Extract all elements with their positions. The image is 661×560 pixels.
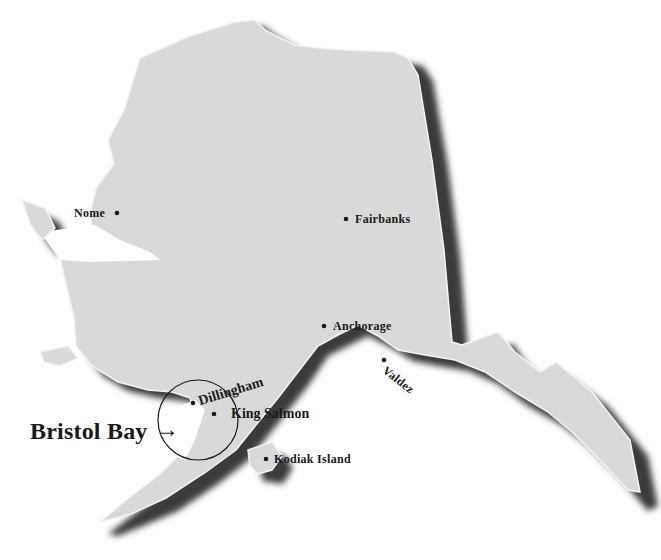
nunivak-island xyxy=(40,346,78,366)
kodiak-dot xyxy=(264,457,269,462)
city-label-anchorage: Anchorage xyxy=(333,320,392,332)
dillingham-dot xyxy=(191,401,196,406)
anchorage-dot xyxy=(322,324,327,329)
king-salmon-dot xyxy=(212,412,217,417)
nome-dot xyxy=(115,211,120,216)
city-label-kodiak-island: Kodiak Island xyxy=(274,453,351,465)
city-label-fairbanks: Fairbanks xyxy=(355,213,410,225)
callout-label-bristol-bay: Bristol Bay xyxy=(30,419,148,443)
city-label-nome: Nome xyxy=(74,207,105,219)
valdez-dot xyxy=(382,358,387,363)
alaska-map xyxy=(0,0,661,560)
fairbanks-dot xyxy=(344,217,349,222)
arrow-right-icon: → xyxy=(155,417,179,441)
mainland xyxy=(60,20,640,522)
land xyxy=(22,20,640,522)
city-label-king-salmon: King Salmon xyxy=(231,407,309,421)
